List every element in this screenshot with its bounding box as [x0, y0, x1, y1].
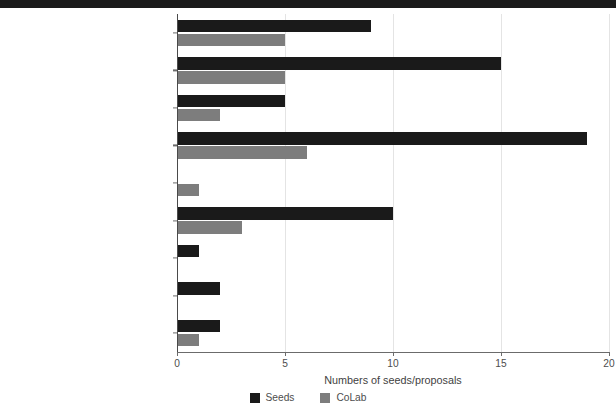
bar-colab-5 [177, 221, 242, 234]
bar-seeds-2 [177, 95, 285, 108]
legend-item-seeds[interactable]: Seeds [250, 392, 295, 403]
y-axis-line [177, 14, 178, 352]
legend-label: CoLab [336, 392, 366, 403]
y-tick-7 [173, 295, 177, 296]
bar-seeds-6 [177, 245, 199, 258]
x-tick-mark-20 [609, 352, 610, 356]
bar-colab-8 [177, 334, 199, 347]
x-axis-label-0: 0 [174, 358, 180, 369]
legend-label: Seeds [266, 392, 295, 403]
x-tick-mark-5 [285, 352, 286, 356]
chart-legend: SeedsCoLab [0, 392, 616, 403]
y-tick-1 [173, 70, 177, 71]
bar-colab-1 [177, 71, 285, 84]
x-axis-label-10: 10 [387, 358, 398, 369]
y-tick-5 [173, 220, 177, 221]
legend-item-colab[interactable]: CoLab [320, 392, 366, 403]
bar-colab-0 [177, 34, 285, 47]
bar-colab-3 [177, 146, 307, 159]
y-tick-0 [173, 32, 177, 33]
x-axis-label-15: 15 [495, 358, 506, 369]
bar-seeds-0 [177, 20, 371, 33]
y-tick-8 [173, 333, 177, 334]
y-tick-2 [173, 107, 177, 108]
bar-colab-4 [177, 184, 199, 197]
x-tick-mark-10 [393, 352, 394, 356]
bar-seeds-3 [177, 132, 587, 145]
gridline-15 [501, 14, 502, 352]
bar-seeds-8 [177, 320, 220, 333]
top-banner [0, 0, 616, 8]
bar-seeds-5 [177, 207, 393, 220]
plot-area [177, 14, 609, 352]
legend-swatch-icon-seeds [250, 393, 260, 403]
gridline-20 [609, 14, 610, 352]
y-tick-4 [173, 182, 177, 183]
y-tick-6 [173, 258, 177, 259]
x-axis-title: Numbers of seeds/proposals [177, 374, 609, 386]
bar-seeds-1 [177, 57, 501, 70]
bar-seeds-7 [177, 282, 220, 295]
x-tick-mark-0 [177, 352, 178, 356]
legend-swatch-icon-colab [320, 393, 330, 403]
x-tick-mark-15 [501, 352, 502, 356]
chart-figure: Energy accessBehavioural changeEnd-use e… [0, 0, 616, 417]
x-axis-label-5: 5 [282, 358, 288, 369]
y-tick-3 [173, 145, 177, 146]
x-axis-label-20: 20 [603, 358, 614, 369]
bar-colab-2 [177, 109, 220, 122]
